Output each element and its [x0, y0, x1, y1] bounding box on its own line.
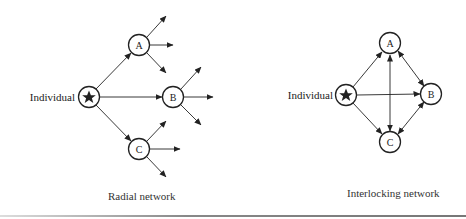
edge-a-out-3 — [147, 53, 166, 73]
edge-individual-b — [357, 94, 420, 95]
interlocking-node-b-label: B — [428, 89, 435, 100]
edge-b-c — [398, 102, 424, 134]
radial-node-b-label: B — [170, 92, 177, 103]
interlocking-node-a-label: A — [386, 38, 394, 49]
radial-node-a-label: A — [135, 40, 143, 51]
interlocking-individual-label: Individual — [288, 89, 333, 101]
radial-caption: Radial network — [108, 190, 176, 202]
radial-node-c-label: C — [136, 144, 143, 155]
edge-c-out-1 — [147, 121, 166, 141]
radial-network — [79, 16, 214, 177]
edge-b-out-3 — [181, 105, 201, 125]
edge-a-out-1 — [147, 16, 166, 37]
edge-individual-a — [96, 53, 131, 89]
radial-individual-label: Individual — [30, 91, 75, 103]
edge-a-b — [398, 51, 424, 86]
edge-individual-a — [353, 52, 382, 87]
edge-c-out-3 — [147, 157, 166, 177]
edge-individual-c — [353, 103, 382, 134]
interlocking-node-c-label: C — [387, 137, 394, 148]
edge-individual-c — [96, 105, 131, 141]
interlocking-caption: Interlocking network — [347, 187, 440, 199]
interlocking-network — [336, 33, 442, 153]
edge-b-out-1 — [181, 67, 201, 89]
bottom-rule — [0, 215, 466, 217]
